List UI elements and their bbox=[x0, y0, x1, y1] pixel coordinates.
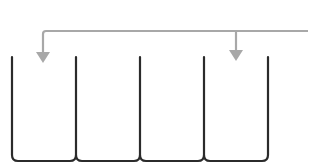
arrows-group bbox=[43, 31, 308, 54]
bin-3 bbox=[140, 57, 204, 161]
bin-4 bbox=[204, 57, 268, 161]
bin-2 bbox=[76, 57, 140, 161]
bins-group bbox=[12, 57, 268, 161]
feed-line bbox=[43, 31, 308, 54]
arrow-down-icon bbox=[36, 52, 50, 63]
bin-1 bbox=[12, 57, 76, 161]
diagram-canvas bbox=[0, 0, 329, 168]
bins-diagram bbox=[0, 0, 329, 168]
arrow-down-icon bbox=[229, 50, 243, 61]
